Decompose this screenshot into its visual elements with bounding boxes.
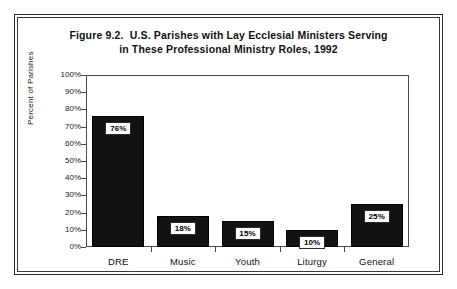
- y-axis-tick-label: 0%: [45, 243, 81, 251]
- y-axis-title: Percent of Parishes: [26, 111, 35, 125]
- bar-value-label: 15%: [235, 227, 261, 240]
- y-axis-tick-mark: [81, 213, 86, 214]
- bar-value-label: 10%: [299, 236, 325, 249]
- x-axis-category-label: Youth: [215, 256, 280, 267]
- y-axis-tick-mark: [81, 178, 86, 179]
- y-axis-tick-label: 20%: [45, 209, 81, 217]
- y-axis-tick-mark: [81, 109, 86, 110]
- y-axis-tick-mark: [81, 75, 86, 76]
- y-axis-tick-mark: [81, 161, 86, 162]
- y-axis-tick-mark: [81, 144, 86, 145]
- x-axis-category-label: Liturgy: [280, 256, 345, 267]
- x-axis-category-label: DRE: [86, 256, 151, 267]
- bar-value-label: 18%: [170, 222, 196, 235]
- y-axis-tick-label: 90%: [45, 88, 81, 96]
- y-axis-tick-mark: [81, 247, 86, 248]
- y-axis-tick-mark: [81, 230, 86, 231]
- y-axis-tick-label: 40%: [45, 174, 81, 182]
- y-axis-tick-label: 100%: [45, 71, 81, 79]
- y-axis-tick-label: 80%: [45, 105, 81, 113]
- y-axis-tick-label: 10%: [45, 226, 81, 234]
- y-axis-tick-label: 70%: [45, 123, 81, 131]
- x-axis-category-label: General: [344, 256, 409, 267]
- figure-border-frame: Figure 9.2. U.S. Parishes with Lay Eccle…: [14, 14, 443, 275]
- x-axis-tick-mark: [151, 247, 152, 252]
- y-axis-tick-mark: [81, 195, 86, 196]
- y-axis-tick-label: 60%: [45, 140, 81, 148]
- y-axis-tick-labels: 100%90%80%70%60%50%40%30%20%10%0%: [41, 15, 81, 276]
- x-axis-category-label: Music: [151, 256, 216, 267]
- x-axis-tick-mark: [215, 247, 216, 252]
- x-axis-tick-mark: [280, 247, 281, 252]
- y-axis-tick-mark: [81, 127, 86, 128]
- bar-value-label: 25%: [364, 210, 390, 223]
- x-axis-tick-mark: [344, 247, 345, 252]
- y-axis-tick-mark: [81, 92, 86, 93]
- y-axis-tick-label: 50%: [45, 157, 81, 165]
- bar: [92, 116, 144, 247]
- bar-value-label: 76%: [105, 122, 131, 135]
- chart-plot-wrapper: Percent of Parishes 100%90%80%70%60%50%4…: [15, 15, 444, 276]
- y-axis-tick-label: 30%: [45, 191, 81, 199]
